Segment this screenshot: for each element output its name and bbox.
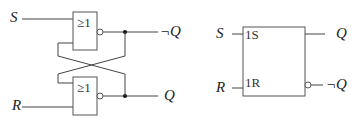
s-input-label: S <box>10 9 18 25</box>
sr-latch-block-symbol: S 1S R 1R Q ¬Q <box>215 25 347 96</box>
bottom-gate-symbol: ≥1 <box>77 80 91 95</box>
r-pin-label: 1R <box>245 75 261 90</box>
top-gate-inversion-bubble <box>97 29 103 35</box>
bottom-gate-inversion-bubble <box>97 93 103 99</box>
r-input-label: R <box>11 97 21 113</box>
not-q-output-label: ¬Q <box>160 23 181 39</box>
q-output-label: Q <box>164 87 175 103</box>
s-pin-label: 1S <box>245 27 259 42</box>
block-inversion-bubble <box>305 82 311 88</box>
nor-latch-circuit: S ≥1 ¬Q ≥1 Q R <box>10 9 181 115</box>
block-not-q-label: ¬Q <box>326 76 347 92</box>
block-q-label: Q <box>336 25 347 41</box>
top-gate-symbol: ≥1 <box>77 15 91 30</box>
block-s-label: S <box>216 25 224 41</box>
block-r-label: R <box>215 79 225 95</box>
sr-latch-diagrams: S ≥1 ¬Q ≥1 Q R S 1S R 1R Q ¬Q <box>0 0 363 118</box>
